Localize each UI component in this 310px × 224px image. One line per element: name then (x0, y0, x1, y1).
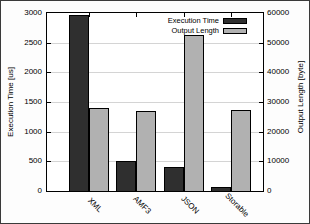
bar-xml-output-length (89, 108, 109, 191)
x-axis-tick-bottom (136, 187, 137, 191)
right-axis-tick-label: 0 (267, 186, 271, 196)
left-axis-tick-label: 2500 (1, 38, 42, 48)
right-axis-tick-label: 60000 (267, 8, 289, 18)
legend-swatch-execution-time (223, 18, 247, 24)
left-axis-tick-label: 1000 (1, 127, 42, 137)
left-axis-tick (47, 43, 51, 44)
left-axis-tick (47, 132, 51, 133)
x-axis-tick-top (136, 13, 137, 17)
benchmark-bar-chart: Execution Time [us] Output Length [byte]… (0, 0, 310, 224)
bar-json-execution-time (164, 167, 184, 191)
legend-label: Output Length (171, 26, 219, 35)
left-axis-tick (47, 72, 51, 73)
right-axis-tick (259, 102, 263, 103)
x-axis-label-json: JSON (179, 194, 200, 215)
right-axis-tick-label: 40000 (267, 67, 289, 77)
left-axis-tick (47, 102, 51, 103)
bar-amf3-execution-time (116, 161, 136, 191)
right-axis-title: Output Length [byte] (296, 61, 305, 134)
x-axis-tick-bottom (231, 187, 232, 191)
x-axis-label-amf3: AMF3 (131, 194, 152, 215)
legend-label: Execution Time (168, 16, 219, 25)
bar-storable-execution-time (211, 187, 231, 191)
bar-amf3-output-length (136, 111, 156, 191)
left-axis-tick-label: 3000 (1, 8, 42, 18)
right-axis-tick (259, 72, 263, 73)
bar-xml-execution-time (69, 15, 89, 191)
left-axis-tick (47, 161, 51, 162)
x-axis-tick-bottom (89, 187, 90, 191)
legend-swatch-output-length (223, 28, 247, 34)
right-axis-tick-label: 50000 (267, 38, 289, 48)
bar-json-output-length (184, 35, 204, 191)
x-axis-label-xml: XML (86, 196, 104, 214)
right-axis-tick-label: 20000 (267, 127, 289, 137)
right-axis-tick (259, 43, 263, 44)
legend-row: Execution Time (168, 16, 247, 25)
x-axis-label-storable: Storable (223, 191, 250, 218)
bar-storable-output-length (231, 110, 251, 191)
right-axis-tick-label: 30000 (267, 97, 289, 107)
plot-area: Execution TimeOutput Length (46, 12, 264, 192)
right-axis-tick-label: 10000 (267, 156, 289, 166)
legend-row: Output Length (168, 26, 247, 35)
legend: Execution TimeOutput Length (168, 16, 247, 35)
left-axis-tick-label: 2000 (1, 67, 42, 77)
left-axis-tick-label: 0 (1, 186, 42, 196)
left-axis-tick-label: 1500 (1, 97, 42, 107)
right-axis-tick (259, 161, 263, 162)
left-axis-tick-label: 500 (1, 156, 42, 166)
x-axis-tick-bottom (184, 187, 185, 191)
right-axis-tick (259, 132, 263, 133)
x-axis-tick-top (89, 13, 90, 17)
